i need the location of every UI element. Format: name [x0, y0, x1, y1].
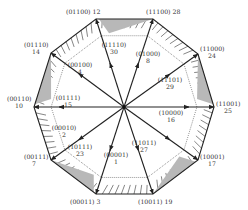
vector-23-arrowhead — [110, 146, 111, 150]
hatch-line — [161, 31, 168, 37]
hatch-line — [121, 185, 124, 194]
hatch-line — [201, 120, 209, 125]
hatch-line — [196, 136, 203, 143]
hatch-line — [56, 49, 61, 57]
shaded-sector-1 — [99, 19, 153, 33]
vertex-label-14: (01110)14 — [24, 41, 49, 55]
hatch-line — [179, 46, 188, 50]
hatch-line — [183, 50, 193, 54]
hatch-line — [47, 147, 56, 148]
vector-2-arrowhead — [79, 137, 83, 140]
vector-30-arrowhead — [110, 63, 111, 67]
vector-27-arrowhead — [166, 137, 170, 140]
hatch-line — [204, 110, 212, 113]
inner-label-16: (10000)16 — [159, 109, 184, 123]
hatch-line — [197, 131, 205, 137]
hatch-line — [193, 146, 200, 154]
hatch-line — [109, 185, 114, 194]
hatch-line — [152, 23, 158, 30]
hatch-line — [91, 23, 92, 34]
inner-label-27: (11011)27 — [132, 139, 157, 153]
hatch-line — [174, 42, 183, 47]
hatch-line — [202, 115, 210, 119]
vertex-label-28: (11100) 28 — [146, 8, 180, 15]
vertex-label-24: (11000)24 — [200, 45, 225, 59]
vertex-label-3: (00011) 3 — [70, 198, 100, 205]
shaded-sector-4 — [153, 157, 196, 194]
hatch-line — [134, 185, 136, 194]
origin-point — [122, 105, 126, 109]
hatch-line — [71, 38, 74, 47]
hatch-line — [165, 35, 173, 41]
vertex-label-7: (00111)7 — [24, 153, 49, 167]
hatch-line — [194, 141, 201, 148]
vertex-label-10: (00110)10 — [7, 95, 32, 109]
vertex-label-12: (01100) 12 — [66, 8, 100, 15]
hatch-line — [170, 38, 178, 43]
hatch-line — [157, 27, 163, 34]
hatch-line — [36, 113, 46, 115]
hatch-line — [61, 45, 65, 53]
vertex-label-19: (10011) 19 — [138, 198, 172, 205]
vector-1-arrowhead — [137, 146, 138, 150]
inner-label-15: (01111)15 — [56, 94, 81, 108]
hatch-line — [38, 119, 48, 121]
hatch-line — [86, 27, 88, 37]
inner-label-2: (00010)2 — [52, 124, 77, 138]
inner-label-29: (11101)29 — [158, 76, 183, 90]
hatch-line — [66, 42, 70, 51]
vector-8-arrowhead — [137, 63, 138, 67]
vertex-label-25: (11001)25 — [216, 100, 241, 114]
hatch-line — [76, 34, 79, 43]
space-vector-diagram: (11001)25(10000)16(11000)24(11101)29(111… — [0, 0, 248, 210]
hatch-line — [102, 185, 107, 194]
hatch-line — [115, 185, 119, 194]
hatch-line — [45, 141, 54, 142]
hatch-line — [199, 125, 207, 130]
hatch-line — [81, 30, 83, 40]
hatch-line — [40, 125, 50, 126]
hatch-line — [49, 152, 58, 154]
hatch-line — [128, 185, 131, 194]
hatch-line — [140, 185, 141, 194]
vertex-label-17: (10001)17 — [200, 153, 225, 167]
